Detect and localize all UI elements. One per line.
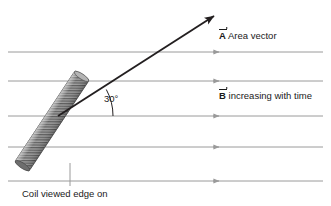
area-vector-label: A Area vector xyxy=(219,30,277,41)
area-vector-label-text: Area vector xyxy=(226,30,277,41)
magnetic-field-label: B increasing with time xyxy=(219,90,312,101)
magnetic-field-label-text: increasing with time xyxy=(226,90,312,101)
vector-symbol-b: B xyxy=(219,90,226,101)
physics-diagram xyxy=(0,0,331,206)
angle-label: 30° xyxy=(104,94,118,104)
vector-symbol-a: A xyxy=(219,30,226,41)
diagram-background xyxy=(0,0,331,206)
coil-caption: Coil viewed edge on xyxy=(22,189,108,199)
